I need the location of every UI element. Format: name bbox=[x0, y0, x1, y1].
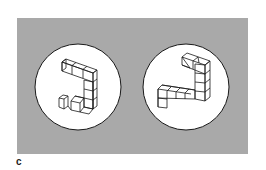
figure-panel-label: c bbox=[16, 157, 22, 167]
mental-rotation-figure bbox=[0, 0, 266, 170]
right-stimulus bbox=[143, 44, 229, 130]
left-stimulus bbox=[35, 44, 121, 130]
